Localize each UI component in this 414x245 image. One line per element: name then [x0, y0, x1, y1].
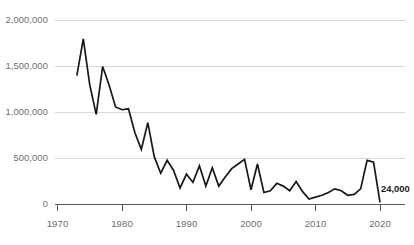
y-tick-label-1000000: 1,000,000: [5, 106, 48, 117]
x-tick-label-2000: 2000: [240, 218, 262, 229]
x-tick-label-1990: 1990: [176, 218, 198, 229]
y-axis-tick-labels: 2,000,000 1,500,000 1,000,000 500,000 0: [5, 14, 48, 209]
chart-canvas: 2,000,000 1,500,000 1,000,000 500,000 0 …: [0, 0, 414, 245]
x-tick-label-1970: 1970: [47, 218, 69, 229]
gridlines: [55, 21, 405, 159]
x-tick-label-1980: 1980: [111, 218, 133, 229]
x-axis: [55, 205, 405, 211]
y-tick-label-0: 0: [43, 198, 48, 209]
x-tick-label-2020: 2020: [369, 218, 391, 229]
x-axis-tick-labels: 1970 1980 1990 2000 2010 2020: [47, 218, 391, 229]
annotation-24000-label: 24,000: [381, 183, 410, 194]
y-tick-label-500000: 500,000: [13, 152, 48, 163]
y-tick-label-1500000: 1,500,000: [5, 60, 48, 71]
y-tick-label-2000000: 2,000,000: [5, 14, 48, 25]
line-chart: 2,000,000 1,500,000 1,000,000 500,000 0 …: [0, 0, 414, 245]
x-tick-label-2010: 2010: [305, 218, 327, 229]
data-series-line: [77, 39, 380, 202]
